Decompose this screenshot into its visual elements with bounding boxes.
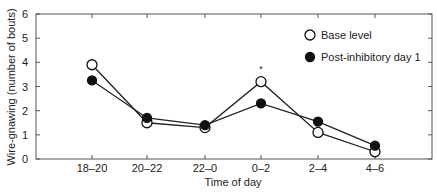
- y-tick-label: 3: [22, 81, 28, 93]
- significance-asterisk: *: [259, 64, 263, 74]
- y-tick-label: 5: [22, 32, 28, 44]
- filled-circle-marker: [143, 113, 152, 122]
- filled-circle-marker: [371, 141, 380, 150]
- x-tick-label: 18–20: [77, 162, 108, 174]
- y-axis-label: Wire-gnawing (number of bouts): [5, 8, 17, 165]
- y-tick-label: 0: [22, 153, 28, 165]
- x-tick-label: 0–2: [252, 162, 270, 174]
- legend-open-circle-icon: [305, 30, 315, 40]
- series-line: [92, 80, 375, 145]
- series-line: [92, 65, 375, 152]
- series-group: *: [87, 60, 380, 157]
- x-tick-label: 20–22: [132, 162, 163, 174]
- y-tick-label: 6: [22, 8, 28, 20]
- plot-frame: [36, 14, 432, 159]
- open-circle-marker: [313, 127, 323, 137]
- filled-circle-marker: [201, 121, 210, 130]
- x-tick-label: 4–6: [366, 162, 384, 174]
- legend: Base levelPost-inhibitory day 1: [305, 29, 421, 63]
- y-tick-label: 4: [22, 56, 28, 68]
- open-circle-marker: [256, 77, 266, 87]
- x-tick-label: 22–0: [193, 162, 217, 174]
- open-circle-marker: [87, 60, 97, 70]
- filled-circle-marker: [257, 99, 266, 108]
- filled-circle-marker: [314, 117, 323, 126]
- filled-circle-marker: [88, 76, 97, 85]
- y-tick-label: 2: [22, 105, 28, 117]
- legend-label: Base level: [321, 29, 372, 41]
- x-axis-label: Time of day: [204, 176, 262, 188]
- legend-filled-circle-icon: [306, 53, 315, 62]
- y-tick-label: 1: [22, 129, 28, 141]
- line-chart: 012345618–2020–2222–00–22–44–6 * Base le…: [0, 0, 437, 193]
- x-tick-label: 2–4: [309, 162, 327, 174]
- legend-label: Post-inhibitory day 1: [321, 51, 421, 63]
